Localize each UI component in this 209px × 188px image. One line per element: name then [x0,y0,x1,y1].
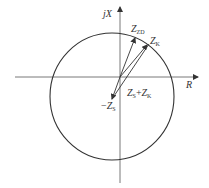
jx-axis-label: jX [103,9,112,19]
neg-zs-label: −ZS [101,101,116,112]
neg-zs-sub: S [112,106,115,112]
zzd-sub: ZD [137,29,145,35]
r-axis-label: R [186,80,192,90]
zs-plus-zk-label: ZS+ZK [127,88,151,99]
neg-zs-vector [112,77,120,99]
diagram-canvas: jX R ZZD ZK ZS+ZK −ZS [0,0,209,188]
zk-sub: K [156,41,160,47]
zk2-sub: K [147,93,151,99]
impedance-circle [50,33,174,160]
zk-label: ZK [150,36,160,47]
zzd-vector [120,38,135,77]
diagram-svg [0,0,209,188]
zzd-label: ZZD [131,24,145,35]
zk-vector [120,45,147,77]
